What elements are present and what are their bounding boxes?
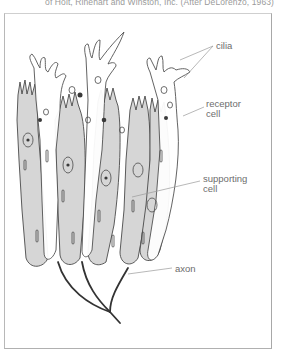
label-receptor-cell-line2: cell [206,109,220,119]
axon-lines [58,262,128,323]
label-supporting-cell-line2: cell [203,184,217,194]
label-axon: axon [175,264,196,274]
label-cilia: cilia [216,41,232,51]
